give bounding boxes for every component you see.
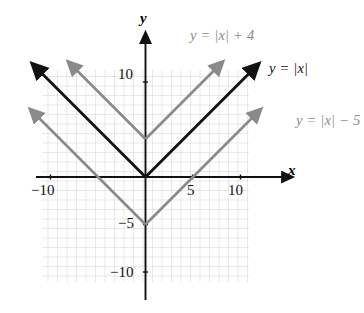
- y-axis-label: y: [140, 11, 147, 26]
- absolute-value-graph-figure: −10 5 10 10 −5 −10 y x y = |x| + 4 y = |…: [0, 0, 364, 313]
- x-axis-label: x: [288, 163, 296, 178]
- y-tick-label-neg10: −10: [110, 265, 133, 280]
- y-tick-label-neg5: −5: [118, 216, 134, 231]
- equation-label-abs-x: y = |x|: [269, 61, 308, 76]
- coordinate-plane-svg: [0, 0, 364, 313]
- x-tick-label-5: 5: [187, 183, 195, 198]
- equation-label-abs-plus-4: y = |x| + 4: [190, 28, 254, 43]
- x-tick-label-neg10: −10: [31, 183, 54, 198]
- x-tick-label-10: 10: [228, 183, 243, 198]
- y-tick-label-10: 10: [118, 67, 133, 82]
- equation-label-abs-minus-5: y = |x| − 5: [296, 113, 360, 128]
